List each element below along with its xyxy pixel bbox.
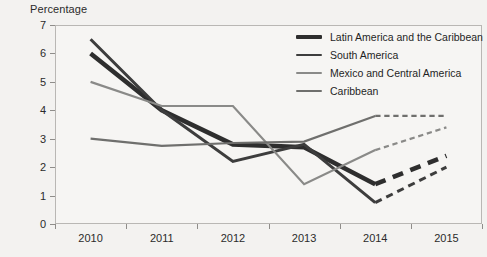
- y-axis-tick-label: 1: [24, 190, 46, 202]
- line-chart: Percentage 01234567 20102011201220132014…: [0, 0, 487, 257]
- y-axis-tick-label: 0: [24, 218, 46, 230]
- y-axis-tick-label: 5: [24, 76, 46, 88]
- y-axis-tick-mark: [50, 25, 55, 26]
- y-axis-tick-label: 2: [24, 161, 46, 173]
- series-line-dashed-0: [375, 156, 446, 184]
- x-axis-tick-mark: [269, 224, 270, 229]
- x-axis-tick-mark: [197, 224, 198, 229]
- series-line-solid-3: [91, 116, 376, 146]
- legend-swatch-latin-america-and-the-caribbean: [296, 35, 322, 39]
- legend-swatch-south-america: [296, 54, 322, 57]
- x-axis-tick-mark: [126, 224, 127, 229]
- y-axis-tick-label: 7: [24, 19, 46, 31]
- y-axis-tick-label: 4: [24, 104, 46, 116]
- x-axis-tick-label: 2013: [292, 232, 316, 244]
- series-line-dashed-1: [375, 167, 446, 203]
- legend-label-mexico-and-central-america: Mexico and Central America: [330, 68, 461, 79]
- x-axis-tick-label: 2011: [150, 232, 174, 244]
- x-axis-tick-label: 2012: [221, 232, 245, 244]
- y-axis-tick-mark: [50, 139, 55, 140]
- y-axis-tick-mark: [50, 110, 55, 111]
- legend: Latin America and the Caribbean South Am…: [296, 29, 483, 101]
- legend-item-caribbean[interactable]: Caribbean: [296, 83, 483, 99]
- legend-label-latin-america-and-the-caribbean: Latin America and the Caribbean: [330, 32, 483, 43]
- y-axis-tick-mark: [50, 196, 55, 197]
- series-line-dashed-2: [375, 127, 446, 150]
- legend-label-south-america: South America: [330, 50, 398, 61]
- x-axis-tick-label: 2014: [363, 232, 387, 244]
- x-axis-tick-mark: [340, 224, 341, 229]
- x-axis-tick-label: 2015: [434, 232, 458, 244]
- legend-item-mexico-and-central-america[interactable]: Mexico and Central America: [296, 65, 483, 81]
- x-axis-tick-label: 2010: [78, 232, 102, 244]
- legend-item-latin-america-and-the-caribbean[interactable]: Latin America and the Caribbean: [296, 29, 483, 45]
- x-axis-tick-mark: [411, 224, 412, 229]
- x-axis-tick-mark: [482, 224, 483, 229]
- y-axis-tick-mark: [50, 167, 55, 168]
- legend-label-caribbean: Caribbean: [330, 86, 378, 97]
- x-axis-tick-mark: [55, 224, 56, 229]
- y-axis-tick-label: 3: [24, 133, 46, 145]
- legend-item-south-america[interactable]: South America: [296, 47, 483, 63]
- y-axis-tick-label: 6: [24, 47, 46, 59]
- y-axis-tick-mark: [50, 82, 55, 83]
- y-axis-tick-mark: [50, 53, 55, 54]
- legend-swatch-mexico-and-central-america: [296, 72, 322, 74]
- legend-swatch-caribbean: [296, 90, 322, 92]
